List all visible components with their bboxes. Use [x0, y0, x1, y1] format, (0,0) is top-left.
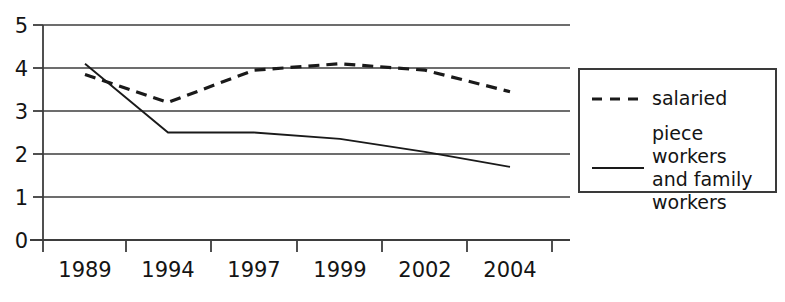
- legend-swatch-dashed-line: [590, 92, 646, 106]
- y-tick-label: 5: [15, 14, 28, 38]
- x-tick-marks: [43, 240, 552, 252]
- chart-legend: salaried piece workers and family worker…: [578, 68, 777, 193]
- legend-item-piece-workers: piece workers and family workers: [590, 122, 775, 214]
- line-chart-figure: 5 4 3 2 1 0 1989 1994 1997 1999 2002 200…: [0, 0, 785, 302]
- legend-label-salaried: salaried: [652, 87, 727, 110]
- y-tick-label: 4: [15, 57, 28, 81]
- legend-label-piece-workers: piece workers and family workers: [652, 122, 775, 214]
- x-tick-label: 1989: [58, 258, 111, 282]
- x-tick-label: 2002: [398, 258, 451, 282]
- y-tick-marks: [33, 25, 43, 240]
- y-tick-label: 1: [15, 186, 28, 210]
- x-tick-label: 1999: [313, 258, 366, 282]
- legend-item-salaried: salaried: [590, 87, 727, 110]
- x-axis-labels: 1989 1994 1997 1999 2002 2004: [58, 258, 536, 282]
- x-tick-label: 1994: [141, 258, 194, 282]
- y-tick-label: 0: [15, 229, 28, 253]
- series-line-piece-workers: [85, 64, 510, 167]
- legend-swatch-solid-line: [590, 161, 646, 175]
- y-tick-label: 2: [15, 143, 28, 167]
- gridlines: [43, 25, 570, 197]
- y-axis-labels: 5 4 3 2 1 0: [15, 14, 28, 253]
- series-line-salaried: [85, 64, 510, 103]
- x-tick-label: 1997: [227, 258, 280, 282]
- y-tick-label: 3: [15, 100, 28, 124]
- x-tick-label: 2004: [483, 258, 536, 282]
